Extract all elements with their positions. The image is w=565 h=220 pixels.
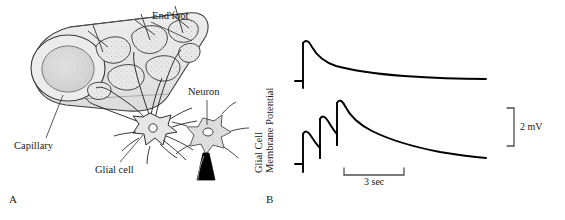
y-axis-label-line-1: Glial Cell xyxy=(253,132,264,173)
figure-canvas xyxy=(0,0,565,220)
trace-single-stimulus xyxy=(295,41,486,88)
voltage-scale-label: 2 mV xyxy=(520,121,543,132)
y-axis-label-line-2: Membrane Potential xyxy=(264,88,275,173)
end-foot-shape xyxy=(168,19,198,42)
end-foot-shape xyxy=(179,43,201,62)
panel-b-traces xyxy=(295,41,514,175)
trace-triple-stimulus xyxy=(295,101,486,172)
glial-cell-soma xyxy=(133,113,177,145)
glial-nucleus xyxy=(149,124,157,132)
end-foot-shape xyxy=(108,65,144,91)
label-end-foot: End foot xyxy=(152,10,188,21)
trace-decay-lower-3 xyxy=(337,101,486,158)
neuron-soma xyxy=(187,115,231,154)
label-neuron: Neuron xyxy=(188,86,220,97)
trace-decay-lower-1 xyxy=(303,132,320,148)
label-glial-cell: Glial cell xyxy=(95,164,134,175)
axon-terminal xyxy=(197,153,215,180)
trace-decay-upper xyxy=(303,41,486,79)
trace-decay-lower-2 xyxy=(320,117,337,134)
figure-root: End foot Capillary Glial cell Neuron Gli… xyxy=(0,0,565,220)
label-capillary: Capillary xyxy=(14,140,53,151)
end-foot-shape xyxy=(88,82,112,99)
panel-b-letter: B xyxy=(266,193,274,205)
leader-glial-cell xyxy=(120,135,143,162)
time-scale-label: 3 sec xyxy=(364,176,384,187)
neuron-nucleus xyxy=(203,128,213,136)
time-scale-bar xyxy=(344,168,404,175)
panel-a-letter: A xyxy=(9,193,17,205)
voltage-scale-bar xyxy=(507,108,514,146)
y-axis-label: Glial Cell Membrane Potential xyxy=(254,55,276,173)
